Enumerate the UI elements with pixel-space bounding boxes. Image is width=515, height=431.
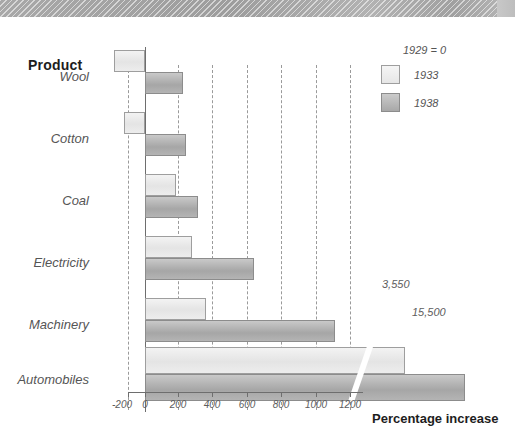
annotation-3550: 3,550 (382, 278, 410, 290)
category-label-machinery: Machinery (29, 317, 89, 332)
legend-baseline-note: 1929 = 0 (403, 44, 501, 56)
legend-item-1938: 1938 (381, 93, 501, 112)
bar-machinery-1933 (145, 298, 206, 320)
bar-electricity-1933 (145, 236, 192, 258)
xtick-800 (281, 392, 282, 397)
xtick-label-200: 200 (170, 399, 187, 410)
decorative-top-banner (0, 0, 515, 17)
legend-label-1933: 1933 (414, 69, 438, 81)
xtick-label-800: 800 (273, 399, 290, 410)
bar-electricity-1938 (145, 258, 254, 280)
legend-swatch-1933-icon (381, 65, 400, 84)
bar-coal-1938 (145, 196, 198, 218)
bar-cotton-1938 (145, 134, 186, 156)
xtick-0 (145, 392, 146, 397)
xtick-label-1200: 1200 (339, 399, 361, 410)
chart-legend: 1929 = 0 1933 1938 (381, 44, 501, 112)
bar-automobiles-1938 (145, 374, 465, 401)
xtick-600 (247, 392, 248, 397)
bar-coal-1933 (145, 174, 176, 196)
banner-corner-notch (497, 0, 515, 17)
legend-item-1933: 1933 (381, 65, 501, 84)
xtick-label--200: -200 (112, 399, 132, 410)
bar-cotton-1933 (124, 112, 145, 134)
category-label-electricity: Electricity (33, 255, 89, 270)
category-label-coal: Coal (62, 193, 89, 208)
category-label-wool: Wool (59, 69, 89, 84)
annotation-15500: 15,500 (412, 306, 446, 318)
xtick-400 (212, 392, 213, 397)
x-axis-line (128, 392, 363, 393)
xtick-label-0: 0 (142, 399, 148, 410)
bar-wool-1933 (114, 50, 145, 72)
xtick--200 (128, 392, 129, 397)
legend-label-1938: 1938 (414, 97, 438, 109)
xtick-1000 (316, 392, 317, 397)
xtick-label-400: 400 (204, 399, 221, 410)
bar-chart: Product Wool Cotton Coal Electricity Mac… (0, 17, 515, 431)
category-label-cotton: Cotton (51, 131, 89, 146)
bar-wool-1938 (145, 72, 183, 94)
category-label-automobiles: Automobiles (17, 372, 89, 387)
xtick-1200 (350, 392, 351, 397)
xtick-label-1000: 1000 (305, 399, 327, 410)
x-axis-title: Percentage increase (372, 411, 498, 426)
legend-swatch-1938-icon (381, 93, 400, 112)
xtick-label-600: 600 (239, 399, 256, 410)
bar-machinery-1938 (145, 320, 335, 342)
xtick-200 (178, 392, 179, 397)
